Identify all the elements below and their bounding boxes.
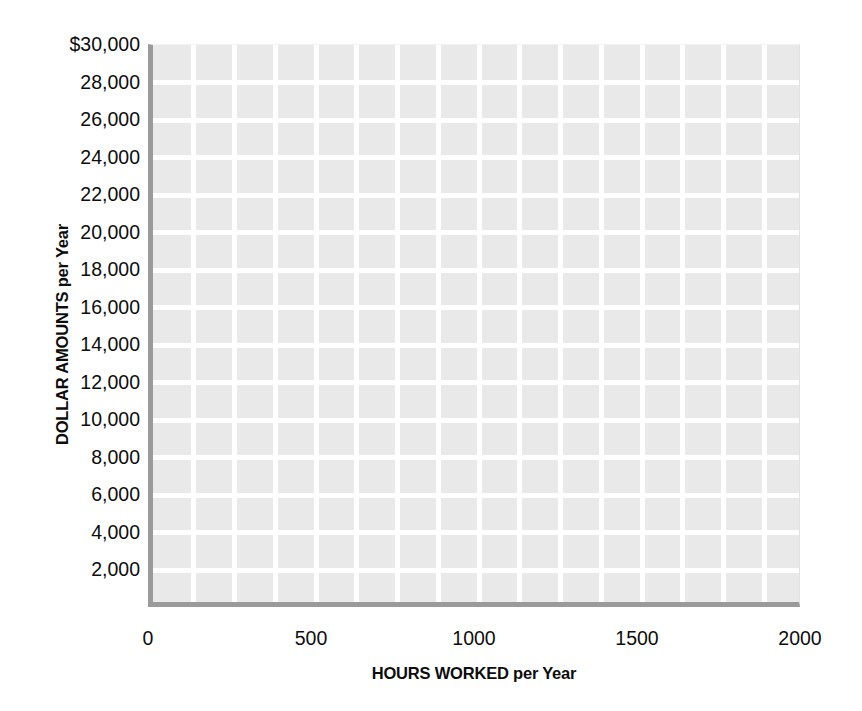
horizontal-gridline xyxy=(153,418,799,423)
vertical-gridline xyxy=(436,45,441,602)
y-tick-label: 12,000 xyxy=(0,372,140,392)
y-tick-label: 26,000 xyxy=(0,109,140,129)
horizontal-gridline xyxy=(153,80,799,85)
vertical-gridline xyxy=(477,45,482,602)
vertical-gridline xyxy=(273,45,278,602)
horizontal-gridline xyxy=(153,343,799,348)
y-tick-label: 4,000 xyxy=(0,522,140,542)
y-tick-label: 20,000 xyxy=(0,222,140,242)
vertical-gridline xyxy=(517,45,522,602)
horizontal-gridline xyxy=(153,493,799,498)
vertical-gridline xyxy=(558,45,563,602)
y-tick-label: 18,000 xyxy=(0,259,140,279)
plot-area xyxy=(148,44,800,607)
vertical-gridline xyxy=(395,45,400,602)
horizontal-gridline xyxy=(153,268,799,273)
y-tick-label: 10,000 xyxy=(0,409,140,429)
horizontal-gridline xyxy=(153,155,799,160)
y-tick-label: 8,000 xyxy=(0,447,140,467)
y-tick-label: 14,000 xyxy=(0,334,140,354)
vertical-gridline xyxy=(232,45,237,602)
x-tick-label: 500 xyxy=(251,627,371,649)
x-axis-title: HOURS WORKED per Year xyxy=(148,664,800,683)
y-tick-label: 2,000 xyxy=(0,559,140,579)
vertical-gridline xyxy=(680,45,685,602)
vertical-gridline xyxy=(354,45,359,602)
horizontal-gridline xyxy=(153,193,799,198)
x-tick-label: 0 xyxy=(88,627,208,649)
x-tick-label: 1000 xyxy=(414,627,534,649)
y-tick-label: 16,000 xyxy=(0,297,140,317)
vertical-gridline xyxy=(599,45,604,602)
horizontal-gridline xyxy=(153,305,799,310)
horizontal-gridline xyxy=(153,380,799,385)
horizontal-gridline xyxy=(153,455,799,460)
y-tick-label: 28,000 xyxy=(0,72,140,92)
vertical-gridline xyxy=(191,45,196,602)
y-tick-label: 24,000 xyxy=(0,147,140,167)
horizontal-gridline xyxy=(153,568,799,573)
vertical-gridline xyxy=(762,45,767,602)
plot-gridlines xyxy=(153,45,799,602)
horizontal-gridline xyxy=(153,530,799,535)
vertical-gridline xyxy=(640,45,645,602)
horizontal-gridline xyxy=(153,118,799,123)
blank-grid-chart: DOLLAR AMOUNTS per Year 2,0004,0006,0008… xyxy=(0,0,862,711)
vertical-gridline xyxy=(314,45,319,602)
x-tick-label: 2000 xyxy=(740,627,860,649)
y-tick-label: 22,000 xyxy=(0,184,140,204)
y-tick-label: 6,000 xyxy=(0,484,140,504)
horizontal-gridline xyxy=(153,230,799,235)
y-tick-label: $30,000 xyxy=(0,34,140,54)
vertical-gridline xyxy=(721,45,726,602)
x-tick-label: 1500 xyxy=(577,627,697,649)
